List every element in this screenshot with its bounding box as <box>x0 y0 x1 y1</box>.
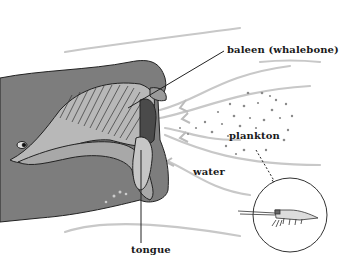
krill-magnified <box>238 178 327 252</box>
label-tongue: tongue <box>131 244 171 255</box>
whale-feeding-diagram: baleen (whalebone) plankton water tongue <box>0 0 340 265</box>
label-water: water <box>193 166 225 177</box>
whale-head <box>0 61 168 222</box>
label-baleen: baleen (whalebone) <box>227 44 339 55</box>
label-plankton: plankton <box>229 130 280 141</box>
flow-arrowheads <box>166 100 190 166</box>
diagram-canvas <box>0 0 340 265</box>
plankton-cloud <box>179 92 293 155</box>
plankton-zoom-leader <box>256 150 276 184</box>
